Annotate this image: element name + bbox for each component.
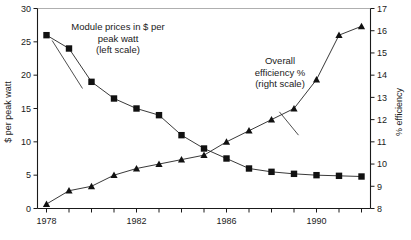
right-axis-tick-label: 13 [377, 93, 387, 103]
data-point-marker-square [66, 45, 72, 51]
data-point-marker-triangle [358, 23, 365, 29]
data-point-marker-triangle [313, 76, 320, 82]
data-point-marker-square [201, 145, 207, 151]
left-axis-tick-label: 5 [26, 170, 31, 180]
data-point-marker-square [43, 32, 49, 38]
data-point-marker-square [88, 79, 94, 85]
left-axis-tick-label: 20 [21, 70, 31, 80]
data-point-marker-triangle [88, 183, 95, 189]
overall-efficiency-leader-line [279, 112, 298, 135]
x-axis-tick-label: 1982 [126, 216, 146, 226]
left-axis-tick-label: 25 [21, 37, 31, 47]
data-point-marker-square [268, 169, 274, 175]
right-axis-tick-label: 10 [377, 159, 387, 169]
data-point-marker-square [223, 155, 229, 161]
right-axis-tick-label: 12 [377, 115, 387, 125]
overall-efficiency-annotation-line: Overall [265, 55, 295, 66]
data-point-marker-triangle [245, 127, 252, 133]
right-axis-tick-label: 17 [377, 4, 387, 14]
right-axis-tick-label: 9 [377, 182, 382, 192]
data-point-marker-square [291, 171, 297, 177]
data-point-marker-square [358, 173, 364, 179]
data-point-marker-square [336, 173, 342, 179]
left-axis-tick-label: 15 [21, 104, 31, 114]
right-axis-title: % efficiency [394, 88, 404, 136]
module-prices-annotation-line: Module prices in $ per [71, 21, 164, 32]
x-axis-tick-label: 1978 [36, 216, 56, 226]
module-prices-annotation-line: (left scale) [96, 44, 140, 55]
right-axis-tick-label: 11 [377, 137, 386, 147]
data-point-marker-triangle [200, 152, 207, 158]
data-point-marker-square [313, 172, 319, 178]
chart-container: 051015202530 891011121314151617 19781982… [0, 0, 411, 240]
dual-axis-line-chart: 051015202530 891011121314151617 19781982… [0, 0, 411, 240]
right-axis: 891011121314151617 [371, 4, 388, 214]
right-axis-tick-label: 16 [377, 26, 387, 36]
x-axis-tick-label: 1986 [216, 216, 236, 226]
data-point-marker-triangle [335, 32, 342, 38]
left-axis-tick-label: 10 [21, 137, 31, 147]
overall-efficiency-annotation-line: (right scale) [255, 78, 305, 89]
data-point-marker-square [156, 112, 162, 118]
overall-efficiency-annotation-line: efficiency % [255, 67, 306, 78]
left-axis-tick-label: 0 [26, 204, 31, 214]
data-point-marker-square [178, 132, 184, 138]
left-axis-title: $ per peak watt [3, 81, 13, 143]
left-axis: 051015202530 [21, 4, 38, 214]
x-axis-tick-label: 1990 [306, 216, 326, 226]
data-point-marker-triangle [43, 200, 50, 206]
data-point-marker-square [246, 165, 252, 171]
data-point-marker-triangle [268, 116, 275, 122]
right-axis-tick-label: 15 [377, 48, 387, 58]
data-point-marker-square [111, 95, 117, 101]
x-axis: 1978198219861990 [36, 209, 370, 226]
data-point-marker-triangle [223, 138, 230, 144]
module-prices-annotation-line: peak watt [98, 33, 139, 44]
right-axis-tick-label: 8 [377, 204, 382, 214]
annotation-layer: Module prices in $ perpeak watt(left sca… [52, 21, 306, 135]
series-layer [43, 23, 365, 207]
right-axis-tick-label: 14 [377, 70, 387, 80]
left-axis-tick-label: 30 [21, 4, 31, 14]
data-point-marker-square [133, 105, 139, 111]
